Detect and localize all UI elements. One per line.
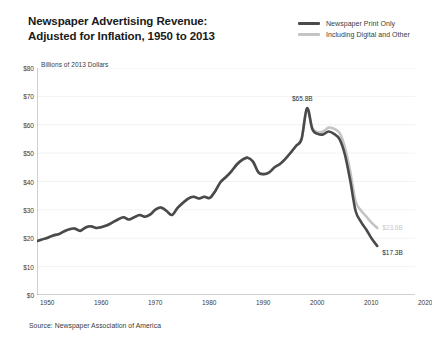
peak-label: $65.8B bbox=[292, 95, 313, 102]
x-tick-1950: 1950 bbox=[40, 299, 54, 306]
x-tick-1970: 1970 bbox=[148, 299, 162, 306]
series-line-including-digital-and-other bbox=[37, 108, 377, 241]
x-tick-2000: 2000 bbox=[310, 299, 324, 306]
plot-area bbox=[37, 68, 415, 295]
grid-lines bbox=[37, 68, 415, 295]
chart-canvas bbox=[37, 68, 415, 295]
x-tick-2010: 2010 bbox=[364, 299, 378, 306]
digital-end-label: $23.6B bbox=[382, 224, 403, 231]
x-tick-1980: 1980 bbox=[202, 299, 216, 306]
x-tick-1960: 1960 bbox=[94, 299, 108, 306]
x-tick-2020: 2020 bbox=[418, 299, 432, 306]
source-note: Source: Newspaper Association of America bbox=[29, 322, 161, 329]
x-tick-1990: 1990 bbox=[256, 299, 270, 306]
print-end-label: $17.3B bbox=[382, 249, 403, 256]
